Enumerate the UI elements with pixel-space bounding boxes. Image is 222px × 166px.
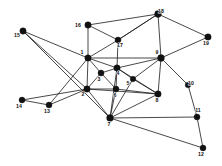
graph-node-label: 6 bbox=[114, 92, 117, 98]
graph-edge bbox=[110, 117, 197, 118]
graph-edge bbox=[118, 14, 158, 40]
graph-edge bbox=[197, 117, 203, 148]
graph-edge bbox=[49, 58, 88, 105]
graph-edge bbox=[158, 14, 208, 37]
graph-node[interactable] bbox=[84, 86, 90, 92]
graph-node-label: 16 bbox=[75, 22, 81, 28]
graph-node-label: 11 bbox=[195, 107, 201, 113]
graph-edge bbox=[87, 89, 110, 118]
graph-edge bbox=[161, 58, 188, 85]
graph-edge bbox=[110, 118, 203, 148]
graph-edge bbox=[23, 31, 88, 58]
graph-node[interactable] bbox=[130, 76, 136, 82]
graph-edge bbox=[88, 25, 118, 40]
graph-node[interactable] bbox=[194, 114, 200, 120]
graph-node-label: 17 bbox=[117, 42, 123, 48]
graph-node-label: 8 bbox=[156, 97, 159, 103]
graph-edge bbox=[23, 31, 110, 118]
graph-canvas: 12345678910111213141516171819 bbox=[0, 0, 222, 166]
graph-node-label: 15 bbox=[14, 32, 20, 38]
graph-edge bbox=[161, 37, 208, 58]
graph-node-label: 5 bbox=[127, 80, 130, 86]
graph-edge bbox=[88, 14, 158, 25]
graph-node-label: 2 bbox=[82, 91, 85, 97]
graph-edge bbox=[88, 40, 118, 58]
graph-edge bbox=[87, 58, 88, 89]
graph-node-label: 19 bbox=[203, 40, 209, 46]
graph-node-label: 13 bbox=[44, 108, 50, 114]
graph-node[interactable] bbox=[85, 55, 91, 61]
graph-edge bbox=[101, 73, 116, 89]
edge-layer bbox=[22, 14, 208, 148]
graph-node-label: 7 bbox=[108, 121, 111, 127]
graph-figure: 12345678910111213141516171819 bbox=[0, 0, 222, 166]
graph-node-label: 10 bbox=[188, 80, 194, 86]
graph-edge bbox=[158, 58, 161, 94]
node-label-layer: 12345678910111213141516171819 bbox=[14, 8, 209, 157]
graph-node[interactable] bbox=[85, 22, 91, 28]
graph-node[interactable] bbox=[158, 55, 165, 62]
graph-edge bbox=[23, 31, 87, 89]
graph-node-label: 12 bbox=[198, 151, 204, 157]
graph-node-label: 14 bbox=[16, 103, 22, 109]
graph-node-label: 9 bbox=[156, 49, 159, 55]
graph-node-label: 4 bbox=[117, 70, 120, 76]
graph-node-label: 1 bbox=[81, 49, 84, 55]
graph-node-label: 3 bbox=[98, 76, 101, 82]
graph-node-label: 18 bbox=[158, 8, 164, 14]
graph-edge bbox=[22, 100, 49, 105]
graph-node[interactable] bbox=[20, 28, 26, 34]
